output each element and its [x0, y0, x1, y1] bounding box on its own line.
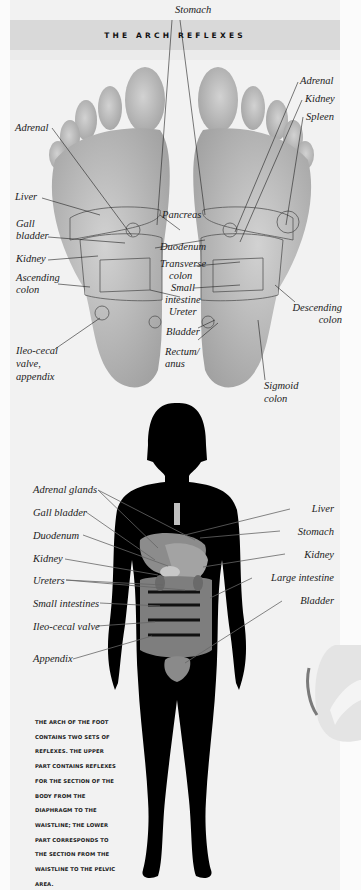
next-page-foot-graphic [308, 645, 361, 742]
caption-line: THE SECTION FROM THE [35, 847, 155, 862]
label-small-intestine-1: Small [171, 282, 195, 294]
label-liver-foot: Liver [15, 191, 37, 203]
label-spleen: Spleen [306, 111, 334, 123]
label-sigmoid-colon-1: Sigmoid [264, 380, 298, 392]
caption-line: PART CONTAINS REFLEXES [35, 759, 155, 774]
label-ascending-colon-1: Ascending [16, 272, 60, 284]
label-ileo-cecal-1: Ileo-cecal [16, 345, 58, 357]
label-liver: Liver [230, 503, 334, 515]
label-transverse-colon-2: colon [169, 270, 192, 282]
caption-text: THE ARCH OF THE FOOT CONTAINS TWO SETS O… [35, 715, 155, 890]
label-descending-colon-2: colon [286, 314, 342, 326]
label-stomach-foot: Stomach [175, 4, 211, 16]
label-small-intestine-2: intestine [165, 294, 201, 306]
label-gall-bladder-foot-1: Gall [16, 218, 35, 230]
label-rectum-1: Rectum/ [165, 346, 199, 358]
caption-line: WAISTLINE TO THE PELVIC [35, 862, 155, 877]
caption-line: WAISTLINE; THE LOWER [35, 818, 155, 833]
caption-line: THE ARCH OF THE FOOT [35, 715, 155, 730]
label-ureter-foot: Ureter [169, 306, 197, 318]
label-adrenal-glands: Adrenal glands [33, 484, 97, 496]
label-stomach: Stomach [230, 526, 334, 538]
label-kidney-left-foot: Kidney [16, 253, 46, 265]
label-descending-colon-1: Descending [286, 302, 342, 314]
right-foot [193, 67, 314, 387]
label-bladder-foot: Bladder [166, 326, 200, 338]
label-bladder: Bladder [230, 595, 334, 607]
label-ileo-cecal-valve: Ileo-cecal valve [33, 621, 100, 633]
label-sigmoid-colon-2: colon [264, 393, 287, 405]
caption-line: BODY FROM THE [35, 789, 155, 804]
label-large-intestine: Large intestine [230, 572, 334, 584]
caption-line: REFLEXES. THE UPPER [35, 744, 155, 759]
label-adrenal-right: Adrenal [300, 75, 333, 87]
label-gall-bladder: Gall bladder [33, 507, 87, 519]
label-kidney-left: Kidney [33, 553, 63, 565]
label-kidney-right-foot: Kidney [305, 93, 335, 105]
caption-line: PART CORRESPONDS TO [35, 833, 155, 848]
label-small-intestines: Small intestines [33, 598, 99, 610]
left-foot [49, 67, 170, 387]
caption-line: FOR THE SECTION OF THE [35, 774, 155, 789]
label-ileo-cecal-3: appendix [16, 371, 55, 383]
label-ascending-colon-2: colon [16, 284, 39, 296]
label-adrenal-left: Adrenal [15, 122, 48, 134]
label-ileo-cecal-2: valve, [16, 358, 41, 370]
caption-line: DIAPHRAGM TO THE [35, 803, 155, 818]
label-rectum-2: anus [165, 358, 185, 370]
label-ureters: Ureters [33, 575, 65, 587]
label-transverse-colon-1: Transverse [160, 258, 206, 270]
label-pancreas: Pancreas [162, 209, 201, 221]
label-appendix: Appendix [33, 653, 73, 665]
label-kidney-right: Kidney [230, 549, 334, 561]
caption-line: AREA. [35, 877, 155, 890]
label-duodenum-foot: Duodenum [160, 241, 206, 253]
label-duodenum: Duodenum [33, 530, 79, 542]
label-gall-bladder-foot-2: bladder [16, 230, 49, 242]
caption-line: CONTAINS TWO SETS OF [35, 730, 155, 745]
